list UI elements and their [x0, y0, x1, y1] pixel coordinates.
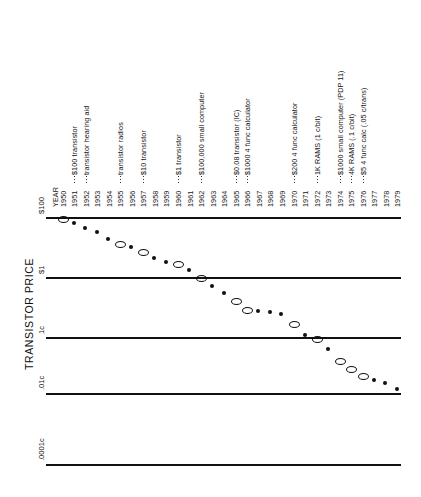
chart-canvas: $100$11c.01c.0001c TRANSISTOR PRICE YEAR…: [0, 0, 421, 497]
data-point-1969: [279, 312, 283, 316]
annotation-1972: 1K RAMS (1 c/bit): [314, 116, 321, 175]
x-tick-label-1950: 1950: [60, 191, 67, 207]
x-tick-label-1954: 1954: [106, 191, 113, 207]
data-point-1965: [231, 298, 242, 305]
annotation-leader-1970: [294, 176, 295, 185]
x-tick-label-1971: 1971: [302, 191, 309, 207]
data-point-1975: [346, 366, 357, 373]
annotation-1951: $100 transistor: [71, 126, 78, 175]
annotation-1960: $1 transistor: [175, 134, 182, 175]
x-tick-label-1973: 1973: [325, 191, 332, 207]
y-tick-label: $1: [38, 265, 46, 273]
x-tick-label-1957: 1957: [140, 191, 147, 207]
data-point-1956: [129, 245, 133, 249]
x-tick-label-1967: 1967: [256, 191, 263, 207]
data-point-1950: [58, 216, 69, 223]
x-tick-label-1961: 1961: [187, 191, 194, 207]
data-point-1979: [395, 387, 399, 391]
annotation-leader-1962: [201, 176, 202, 185]
annotation-1957: $10 transistor: [140, 130, 147, 175]
x-tick-label-1963: 1963: [210, 191, 217, 207]
x-tick-label-1972: 1972: [314, 191, 321, 207]
gridline-$1: [46, 277, 401, 279]
annotation-1970: $200 4 func calculator: [291, 102, 298, 175]
data-point-1951: [72, 221, 76, 225]
x-tick-label-1964: 1964: [221, 191, 228, 207]
annotation-leader-1955: [120, 176, 121, 185]
annotation-1975: 4K RAMS (.1 c/bit): [348, 114, 355, 175]
data-point-1953: [95, 230, 99, 234]
y-tick-label: $100: [38, 197, 46, 214]
x-tick-label-1958: 1958: [152, 191, 159, 207]
data-point-1973: [326, 347, 330, 351]
annotation-leader-1975: [351, 176, 352, 185]
annotation-1962: $100,000 small computer: [198, 92, 205, 175]
x-tick-label-1974: 1974: [337, 191, 344, 207]
x-tick-label-1975: 1975: [348, 191, 355, 207]
annotation-leader-1966: [247, 176, 248, 185]
x-tick-label-1969: 1969: [279, 191, 286, 207]
data-point-1971: [303, 333, 307, 337]
data-point-1970: [289, 321, 300, 328]
data-point-1963: [210, 284, 214, 288]
data-point-1976: [358, 373, 369, 380]
x-tick-label-1960: 1960: [175, 191, 182, 207]
y-tick-label: 1c: [38, 326, 46, 334]
annotation-leader-1965: [236, 176, 237, 185]
x-tick-label-1952: 1952: [83, 191, 90, 207]
data-point-1959: [164, 260, 168, 264]
x-tick-label-1979: 1979: [394, 191, 401, 207]
x-tick-label-1978: 1978: [383, 191, 390, 207]
x-tick-label-1953: 1953: [94, 191, 101, 207]
annotation-leader-1957: [143, 176, 144, 185]
x-tick-label-1976: 1976: [360, 191, 367, 207]
data-point-1954: [106, 237, 110, 241]
annotation-leader-1974: [340, 176, 341, 185]
data-point-1960: [173, 261, 184, 268]
x-tick-label-1965: 1965: [233, 191, 240, 207]
data-point-1978: [383, 381, 387, 385]
x-tick-label-1951: 1951: [71, 191, 78, 207]
annotation-1952: transistor hearing aid: [83, 106, 90, 175]
x-tick-label-1977: 1977: [371, 191, 378, 207]
data-point-1957: [138, 249, 149, 256]
gridline-.0001c: [46, 464, 401, 466]
data-point-1952: [83, 226, 87, 230]
annotation-1974: $1000 small computer (PDP 11): [337, 70, 344, 175]
annotation-leader-1952: [86, 176, 87, 185]
annotation-leader-1951: [74, 176, 75, 185]
x-tick-label-1962: 1962: [198, 191, 205, 207]
x-tick-label-1970: 1970: [291, 191, 298, 207]
annotation-1966: $1000 4 func calculator: [244, 98, 251, 175]
data-point-1967: [256, 309, 260, 313]
y-tick-label: .01c: [38, 375, 46, 389]
y-axis-title: TRANSISTOR PRICE: [24, 258, 35, 370]
gridline-$100: [46, 217, 401, 219]
annotation-leader-1972: [317, 176, 318, 185]
gridline-.01c: [46, 393, 401, 395]
data-point-1977: [372, 378, 376, 382]
data-point-1961: [187, 268, 191, 272]
data-point-1968: [268, 310, 272, 314]
x-tick-label-1966: 1966: [244, 191, 251, 207]
x-tick-label-1968: 1968: [267, 191, 274, 207]
annotation-1965: $0.08 transistor (IC): [233, 109, 240, 175]
data-point-1955: [115, 241, 126, 248]
data-point-1958: [152, 256, 156, 260]
data-point-1974: [335, 358, 346, 365]
annotation-1976: $5 4 func calc (.05 c/trans): [360, 88, 367, 176]
data-point-1962: [196, 275, 207, 282]
gridline-1c: [46, 337, 401, 339]
annotation-leader-1976: [363, 176, 364, 185]
data-point-1966: [242, 307, 253, 314]
x-tick-label-1955: 1955: [117, 191, 124, 207]
y-tick-label: .0001c: [38, 438, 46, 461]
data-point-1964: [222, 291, 226, 295]
x-tick-label-1959: 1959: [163, 191, 170, 207]
data-point-1972: [312, 336, 323, 343]
annotation-leader-1960: [178, 176, 179, 185]
annotation-1955: transistor radios: [117, 122, 124, 175]
x-tick-label-1956: 1956: [129, 191, 136, 207]
